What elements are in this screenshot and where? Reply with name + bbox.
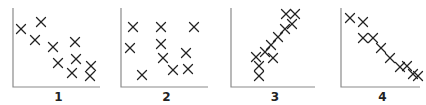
x-marker-icon <box>386 54 395 63</box>
x-marker-icon <box>129 23 138 32</box>
x-marker-icon <box>37 18 46 27</box>
x-marker-icon <box>182 49 191 58</box>
x-marker-icon <box>184 65 193 74</box>
scatter-panel-1: 1 <box>13 8 100 104</box>
x-marker-icon <box>359 18 368 27</box>
x-marker-icon <box>255 62 264 71</box>
x-marker-icon <box>68 69 77 78</box>
x-marker-icon <box>71 38 80 47</box>
x-marker-icon <box>369 34 378 43</box>
x-marker-icon <box>281 25 290 34</box>
x-marker-icon <box>261 48 270 57</box>
x-marker-icon <box>169 66 178 75</box>
axis-lines <box>13 8 100 87</box>
x-marker-icon <box>282 10 291 19</box>
x-marker-icon <box>86 72 95 81</box>
x-marker-icon <box>255 72 264 81</box>
x-marker-icon <box>346 14 355 23</box>
x-marker-icon <box>288 20 297 29</box>
x-marker-icon <box>190 23 199 32</box>
x-marker-icon <box>31 36 40 45</box>
panel-label: 2 <box>162 90 170 104</box>
x-marker-icon <box>72 55 81 64</box>
panel-label: 4 <box>378 90 386 104</box>
x-marker-icon <box>267 41 276 50</box>
panel-label: 3 <box>271 90 279 104</box>
x-marker-icon <box>54 59 63 68</box>
x-marker-icon <box>274 33 283 42</box>
x-marker-icon <box>159 54 168 63</box>
scatter-panel-2: 2 <box>121 8 208 104</box>
x-marker-icon <box>138 71 147 80</box>
x-marker-icon <box>359 34 368 43</box>
x-marker-icon <box>157 40 166 49</box>
x-marker-icon <box>126 44 135 53</box>
x-marker-icon <box>252 53 261 62</box>
x-marker-icon <box>49 43 58 52</box>
x-marker-icon <box>269 54 278 63</box>
scatter-panel-4: 4 <box>341 8 423 104</box>
panel-label: 1 <box>54 90 62 104</box>
scatter-panel-3: 3 <box>231 8 315 104</box>
x-marker-icon <box>377 44 386 53</box>
x-marker-icon <box>87 62 96 71</box>
x-marker-icon <box>403 62 412 71</box>
scatter-figure: 1234 <box>0 0 426 105</box>
x-marker-icon <box>291 10 300 19</box>
x-marker-icon <box>157 23 166 32</box>
x-marker-icon <box>17 25 26 34</box>
